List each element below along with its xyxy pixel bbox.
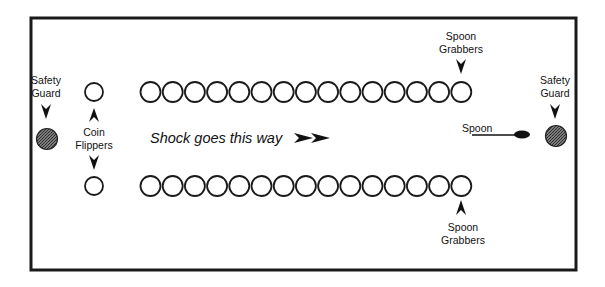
shock-machine-diagram: Coin Flippers Safety Guard Safety Guard … [0,0,605,287]
safety-guard-left-label-line2: Guard [31,87,60,99]
spoon-bowl [514,131,530,139]
coin-flippers-label-line1: Coin [83,126,105,138]
safety-guard-left [37,129,58,150]
spoon-grabbers-bottom-label-line1: Spoon [448,221,479,233]
safety-guard-right-label-line1: Safety [540,74,571,86]
safety-guard-right [546,126,567,147]
safety-guard-left-label-line1: Safety [31,74,62,86]
spoon-grabbers-top-label-line2: Grabbers [439,43,483,55]
direction-label: Shock goes this way [150,130,283,146]
coin-flippers-label-line2: Flippers [75,139,112,151]
spoon-label: Spoon [462,122,493,134]
safety-guard-right-label-line2: Guard [540,87,569,99]
frame-border [31,18,576,270]
spoon-grabbers-top-label-line1: Spoon [446,30,477,42]
spoon-grabbers-bottom-label-line2: Grabbers [441,234,485,246]
